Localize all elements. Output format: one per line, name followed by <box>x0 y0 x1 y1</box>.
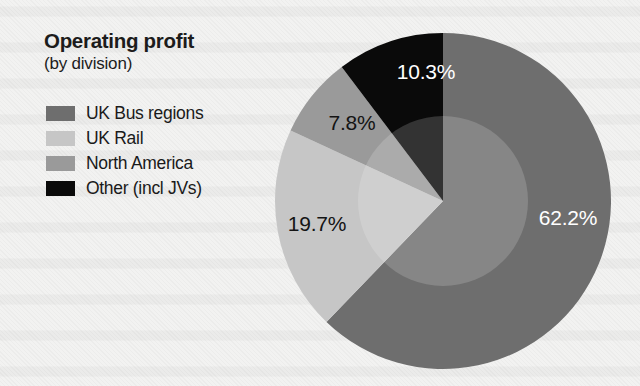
pie-value-label-north-america: 7.8% <box>328 111 375 134</box>
pie-value-label-uk-rail: 19.7% <box>288 212 347 235</box>
pie-value-label-uk-bus-regions: 62.2% <box>539 206 598 229</box>
pie-inner-highlight-disc <box>358 116 528 286</box>
pie-value-label-other: 10.3% <box>397 60 456 83</box>
operating-profit-pie-chart: Operating profit (by division) UK Bus re… <box>0 0 640 386</box>
pie-figure: 10.3% 7.8% 19.7% 62.2% <box>0 0 640 386</box>
